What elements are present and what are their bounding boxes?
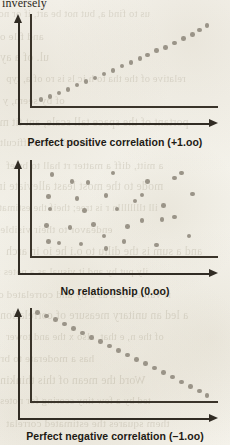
data-point (70, 179, 75, 184)
caption-negative: Perfect negative correlation (–1.oo) (0, 430, 230, 442)
x-axis-arrowhead-icon (209, 414, 218, 422)
data-point (50, 172, 55, 177)
data-point (187, 234, 192, 239)
scatter-plot-negative (12, 308, 218, 426)
book-page-figure: us to find a, but not be art, if or none… (0, 0, 230, 445)
data-point (172, 176, 177, 181)
data-point (82, 208, 87, 213)
data-point (98, 339, 103, 344)
data-point (46, 194, 51, 199)
data-point (79, 242, 84, 247)
top-partial-word: inversely (2, 0, 47, 11)
x-axis-arrowhead-icon (209, 119, 218, 127)
data-point (179, 171, 184, 176)
data-point (115, 207, 120, 212)
data-point (89, 335, 94, 340)
data-point (145, 53, 150, 58)
data-point (53, 317, 58, 322)
data-point (122, 239, 127, 244)
data-point (93, 76, 98, 81)
data-point (133, 199, 138, 204)
data-point (48, 207, 53, 212)
data-point (172, 41, 177, 46)
data-point (116, 348, 121, 353)
plot-frame-bottom (30, 401, 218, 403)
plot-frame-bottom (30, 106, 218, 108)
x-axis-arrowhead-icon (209, 269, 218, 277)
data-point (102, 72, 107, 77)
scatter-plot-none (12, 160, 218, 282)
data-point (188, 384, 193, 389)
data-point (181, 36, 186, 41)
data-point (197, 389, 202, 394)
data-point (104, 193, 109, 198)
data-point (104, 246, 109, 251)
data-point (161, 370, 166, 375)
data-point (190, 192, 195, 197)
data-point (120, 64, 125, 69)
data-point (80, 331, 85, 336)
y-axis-line (18, 22, 20, 124)
data-point (170, 375, 175, 380)
data-point (140, 193, 145, 198)
data-point (44, 223, 49, 228)
data-point (140, 218, 145, 223)
data-point (48, 94, 53, 99)
data-point (75, 196, 80, 201)
data-point (71, 326, 76, 331)
data-point (138, 56, 143, 61)
data-point (35, 310, 40, 315)
data-point (154, 48, 159, 53)
data-point (75, 83, 80, 88)
data-point (44, 314, 49, 319)
plot-frame-bottom (30, 256, 218, 258)
data-point-group (34, 310, 214, 398)
data-point (68, 225, 73, 230)
x-axis-line (18, 273, 210, 275)
data-point-group (34, 18, 214, 104)
data-point (172, 215, 177, 220)
data-point (143, 361, 148, 366)
data-point (84, 79, 89, 84)
figure-no-relationship: No relationship (0.oo) (0, 160, 230, 300)
plot-frame-left (30, 14, 32, 107)
data-point (125, 224, 130, 229)
x-axis-line (18, 123, 210, 125)
data-point (145, 179, 150, 184)
data-point (111, 68, 116, 73)
data-point (197, 28, 202, 33)
data-point (134, 357, 139, 362)
data-point (179, 380, 184, 385)
data-point (57, 91, 62, 96)
data-point (190, 32, 195, 37)
data-point (57, 241, 62, 246)
data-point (154, 243, 159, 248)
data-point-group (34, 164, 214, 252)
y-axis-line (18, 316, 20, 419)
data-point (161, 203, 166, 208)
data-point (91, 222, 96, 227)
data-point (111, 171, 116, 176)
data-point (152, 366, 157, 371)
figure-perfect-positive-correlation: Perfect positive correlation (+1.oo) (0, 14, 230, 154)
data-point (86, 180, 91, 185)
data-point (205, 393, 210, 398)
scatter-plot-positive (12, 14, 218, 132)
x-axis-line (18, 418, 210, 420)
data-point (102, 234, 107, 239)
data-point (129, 60, 134, 65)
caption-positive: Perfect positive correlation (+1.oo) (0, 136, 230, 148)
data-point (160, 217, 165, 222)
data-point (163, 45, 168, 50)
figure-perfect-negative-correlation: Perfect negative correlation (–1.oo) (0, 308, 230, 445)
data-point (125, 353, 130, 358)
data-point (62, 322, 67, 327)
data-point (107, 344, 112, 349)
data-point (39, 97, 44, 102)
plot-frame-left (30, 308, 32, 402)
data-point (66, 87, 71, 92)
data-point (205, 23, 210, 28)
caption-none: No relationship (0.oo) (0, 285, 230, 297)
y-axis-line (18, 168, 20, 274)
plot-frame-left (30, 160, 32, 257)
